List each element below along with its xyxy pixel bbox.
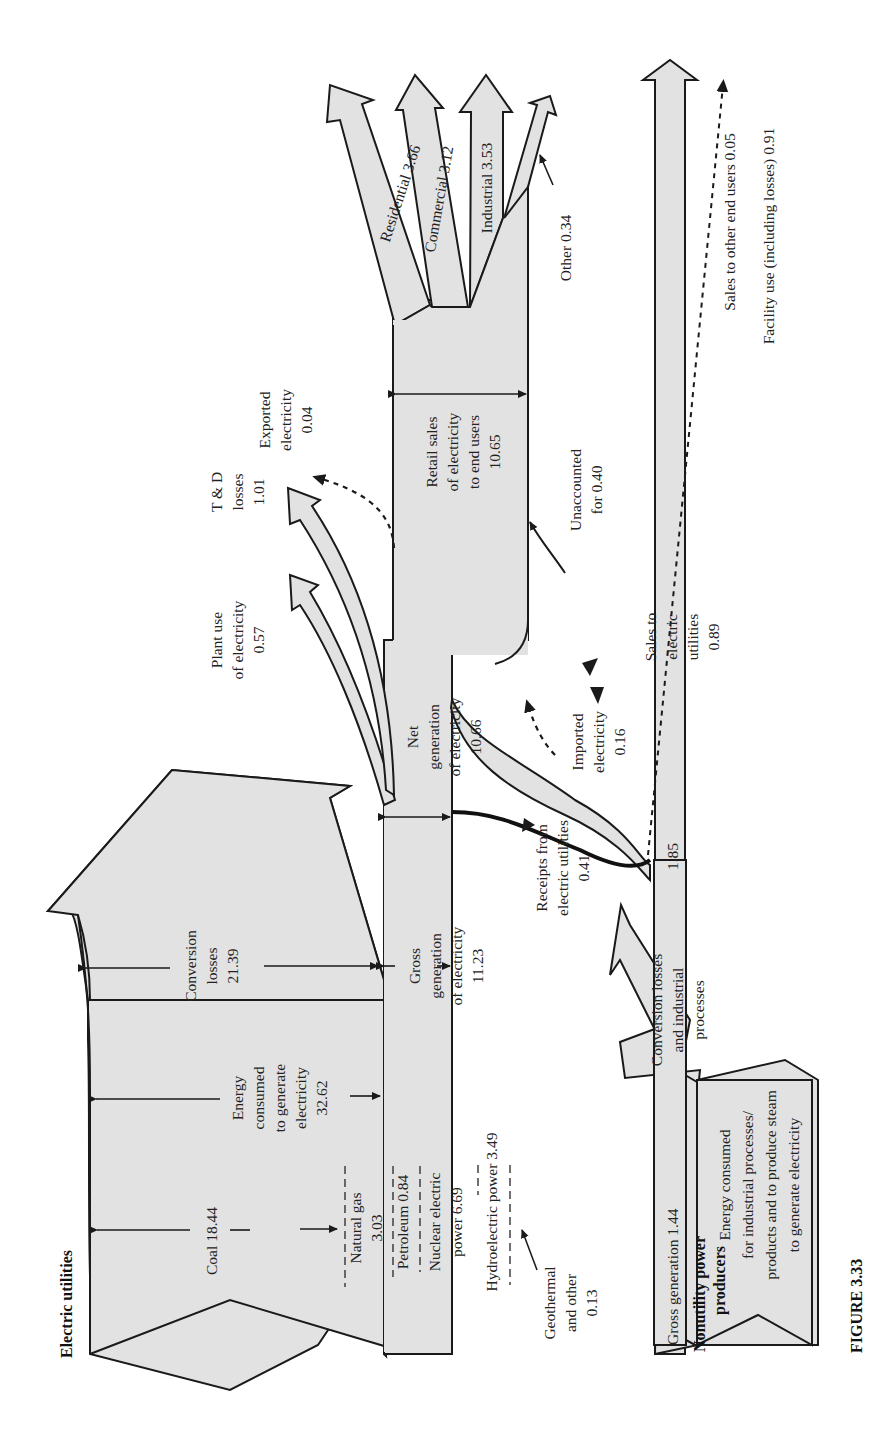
generation-cover: [384, 800, 386, 1352]
receipts-2: electric utilities: [554, 820, 571, 916]
net-generation-2: generation: [425, 704, 442, 770]
retail-sales-3: to end users: [465, 415, 482, 489]
nonutility-energy-4: to generate electricity: [785, 1118, 802, 1253]
hydro-label: Hydroelectric power 3.49: [483, 1132, 500, 1291]
net-generation-1: Net: [404, 725, 421, 748]
retail-sales-2: of electricity: [444, 412, 461, 491]
gross-generation-2: generation: [427, 933, 444, 999]
plant-use-2: of electricity: [229, 600, 246, 679]
nonutility-gross-label: Gross generation 1.44: [664, 1208, 681, 1345]
energy-consumed-5: 32.62: [313, 1081, 330, 1116]
natural-gas-1: Natural gas: [347, 1192, 364, 1263]
geothermal-1: Geothermal: [541, 1266, 558, 1339]
imported-3: 0.16: [611, 728, 628, 755]
gross-generation-3: of electricity: [448, 926, 465, 1005]
sales-other-label: Sales to other end users 0.05: [721, 133, 738, 311]
nonutility-losses-3: processes: [690, 980, 707, 1039]
net-generation-4: 10.66: [467, 719, 484, 754]
energy-consumed-3: to generate: [271, 1064, 288, 1133]
receipts-1: Receipts from: [533, 824, 550, 911]
unaccounted-2: for 0.40: [588, 465, 605, 514]
conversion-cover: [91, 1002, 383, 1350]
coal-label: Coal 18.44: [203, 1207, 220, 1275]
td-losses-3: 1.01: [250, 478, 267, 505]
exported-2: electricity: [277, 389, 294, 451]
exported-1: Exported: [256, 391, 273, 448]
energy-flow-diagram: Electric utilities Nonutility power prod…: [0, 0, 872, 1452]
nonutility-losses-1: Conversion losses: [648, 954, 665, 1066]
petroleum-label: Petroleum 0.84: [394, 1174, 411, 1269]
geothermal-2: and other: [562, 1273, 579, 1332]
sales-utilities-1: Sales to: [642, 612, 659, 661]
nuclear-1: Nuclear electric: [426, 1173, 443, 1272]
gross-generation-4: 11.23: [469, 949, 486, 984]
figure-caption: FIGURE 3.33: [848, 1259, 865, 1353]
conversion-losses-3: 21.39: [224, 948, 241, 983]
geothermal-pointer: [522, 1230, 537, 1270]
retail-sales-1: Retail sales: [423, 416, 440, 487]
nonutility-heading-1: Nonutility power: [691, 1236, 709, 1352]
unaccounted-arrow: [530, 522, 565, 573]
nonutility-energy-2: for industrial processes/: [739, 1110, 756, 1259]
conversion-losses-2: losses: [203, 947, 220, 984]
natural-gas-2: 3.03: [368, 1214, 385, 1241]
sales-arrowhead-1: [582, 658, 598, 676]
gross-generation-1: Gross: [406, 948, 423, 984]
retail-sales-4: 10.65: [486, 434, 503, 469]
net-generation-3: of electricity: [446, 697, 463, 776]
imported-1: Imported: [569, 713, 586, 770]
imported-arrow: [528, 705, 555, 755]
geothermal-3: 0.13: [583, 1289, 600, 1316]
facility-use-label: Facility use (including losses) 0.91: [760, 128, 778, 345]
imported-2: electricity: [590, 711, 607, 773]
nuclear-2: power 6.69: [448, 1187, 465, 1257]
nonutility-losses-2: and industrial: [669, 968, 686, 1053]
energy-consumed-1: Energy: [229, 1076, 246, 1121]
sales-utilities-3: utilities: [684, 614, 701, 661]
sales-utilities-4: 0.89: [705, 623, 722, 650]
exported-3: 0.04: [298, 406, 315, 433]
td-losses-2: losses: [229, 473, 246, 510]
conversion-losses-1: Conversion: [182, 930, 199, 1002]
nonutility-total-label: 1.85: [664, 843, 681, 870]
nonutility-energy-3: products and to produce steam: [762, 1090, 779, 1279]
other-pointer: [540, 155, 553, 185]
plant-use-3: 0.57: [250, 626, 267, 653]
nonutility-heading-2: producers: [711, 1246, 729, 1315]
td-losses-1: T & D: [208, 472, 225, 512]
receipts-3: 0.41: [575, 854, 592, 881]
other-label: Other 0.34: [557, 215, 574, 282]
sales-utilities-2: electric: [663, 614, 680, 660]
sales-arrowhead-2: [590, 687, 604, 704]
unaccounted-1: Unaccounted: [567, 449, 584, 531]
energy-consumed-2: consumed: [250, 1066, 267, 1129]
energy-consumed-4: electricity: [292, 1067, 309, 1129]
plant-use-1: Plant use: [208, 612, 225, 669]
industrial-label: Industrial 3.53: [478, 143, 495, 234]
electric-utilities-heading: Electric utilities: [58, 1250, 75, 1358]
nonutility-energy-1: Energy consumed: [716, 1129, 733, 1240]
